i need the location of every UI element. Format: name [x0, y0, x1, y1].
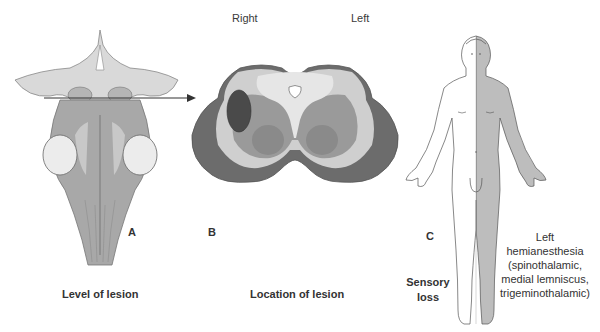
sensory-loss-line-2: loss — [404, 290, 452, 305]
deficit-line-2: hemianesthesia — [490, 244, 600, 258]
deficit-line-5: trigeminothalamic) — [490, 286, 600, 300]
panel-c-letter: C — [426, 230, 434, 242]
deficit-line-4: medial lemniscus, — [490, 272, 600, 286]
sensory-loss-line-1: Sensory — [404, 275, 452, 290]
deficit-line-3: (spinothalamic, — [490, 258, 600, 272]
deficit-description: Left hemianesthesia (spinothalamic, medi… — [490, 230, 600, 300]
sensory-loss-caption: Sensory loss — [404, 275, 452, 305]
deficit-line-1: Left — [490, 230, 600, 244]
